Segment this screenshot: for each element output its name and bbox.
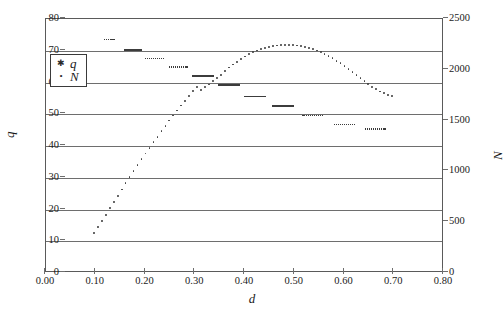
data-point-N (161, 130, 163, 132)
data-point-N (272, 45, 274, 47)
data-point-N (157, 136, 159, 138)
data-point-N (367, 83, 369, 85)
data-point-N (284, 44, 286, 46)
data-point-N (184, 100, 186, 102)
data-point-N (260, 48, 262, 50)
tick-mark (243, 268, 244, 274)
data-point-q (163, 58, 165, 60)
x-axis-tick-label: 0.40 (224, 275, 264, 286)
data-point-q (140, 49, 142, 51)
data-point-N (105, 214, 107, 216)
tick-mark (60, 17, 65, 18)
data-point-q (186, 66, 188, 68)
data-point-N (220, 74, 222, 76)
data-point-N (356, 74, 358, 76)
tick-mark (392, 268, 393, 274)
data-point-q (354, 124, 356, 126)
data-point-N (371, 86, 373, 88)
data-point-N (264, 47, 266, 49)
data-point-N (340, 62, 342, 64)
data-point-N (97, 226, 99, 228)
data-point-N (101, 220, 103, 222)
data-point-N (276, 45, 278, 47)
tick-mark (443, 17, 448, 18)
x-axis-tick-label: 0.20 (125, 275, 165, 286)
data-point-N (117, 195, 119, 197)
tick-mark (44, 268, 45, 274)
tick-mark (60, 112, 65, 113)
data-point-N (324, 53, 326, 55)
data-point-q (113, 39, 115, 41)
data-point-N (332, 57, 334, 59)
y-axis-left-tick-label: 80 (25, 13, 59, 23)
gridline (46, 178, 442, 179)
data-point-N (196, 86, 198, 88)
data-point-N (296, 45, 298, 47)
tick-mark (60, 144, 65, 145)
data-point-N (383, 92, 385, 94)
data-point-N (364, 80, 366, 82)
data-point-N (204, 86, 206, 88)
data-point-N (113, 201, 115, 203)
data-point-q (292, 105, 294, 107)
x-axis-title: d (0, 291, 504, 307)
data-point-N (240, 58, 242, 60)
tick-mark (60, 49, 65, 50)
data-point-N (268, 46, 270, 48)
data-point-q (212, 75, 214, 77)
data-point-N (236, 61, 238, 63)
data-point-N (176, 110, 178, 112)
tick-mark (193, 268, 194, 274)
tick-mark (144, 268, 145, 274)
y-axis-left-tick-label: 20 (25, 204, 59, 214)
plot-area (45, 18, 443, 272)
y-axis-right-tick-label: 2000 (449, 64, 489, 74)
data-point-N (165, 125, 167, 127)
y-axis-right-tick-label: 1000 (449, 165, 489, 175)
x-axis-tick-label: 0.50 (274, 275, 314, 286)
chart-legend: ✱ q • N (50, 54, 87, 87)
data-point-N (188, 95, 190, 97)
data-point-N (304, 46, 306, 48)
x-axis-tick-label: 0.60 (324, 275, 364, 286)
data-point-N (252, 51, 254, 53)
tick-mark (443, 169, 448, 170)
data-point-N (125, 182, 127, 184)
data-point-N (348, 68, 350, 70)
data-point-N (336, 60, 338, 62)
data-point-N (344, 65, 346, 67)
gridline (46, 210, 442, 211)
tick-mark (443, 271, 448, 272)
data-point-N (352, 71, 354, 73)
y-axis-left-tick-label: 10 (25, 235, 59, 245)
data-point-N (172, 115, 174, 117)
data-point-N (208, 84, 210, 86)
x-axis-tick-label: 0.00 (25, 275, 65, 286)
data-point-N (228, 67, 230, 69)
tick-mark (94, 268, 95, 274)
tick-mark (60, 176, 65, 177)
y-axis-right-title: N (490, 151, 504, 160)
data-point-N (300, 45, 302, 47)
data-point-N (375, 88, 377, 90)
data-point-N (280, 44, 282, 46)
tick-mark (443, 119, 448, 120)
tick-mark (60, 208, 65, 209)
data-point-N (312, 48, 314, 50)
data-point-N (391, 95, 393, 97)
y-axis-right-tick-label: 500 (449, 216, 489, 226)
y-axis-left-title: q (2, 132, 18, 139)
x-axis-tick-label: 0.30 (174, 275, 214, 286)
tick-mark (293, 268, 294, 274)
legend-item-n: • N (55, 70, 79, 83)
data-point-N (121, 189, 123, 191)
data-point-N (216, 77, 218, 79)
data-point-N (244, 56, 246, 58)
data-point-q (264, 96, 266, 98)
gridline (46, 83, 442, 84)
tick-mark (60, 271, 65, 272)
data-point-N (292, 44, 294, 46)
data-point-N (320, 51, 322, 53)
gridline (46, 114, 442, 115)
data-point-N (153, 141, 155, 143)
